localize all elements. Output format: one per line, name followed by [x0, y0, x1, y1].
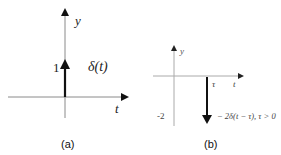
panel-a-impulse	[60, 59, 70, 97]
panel-a-axes	[8, 8, 129, 118]
panel-a-caption: (a)	[61, 139, 74, 150]
panel-a-t-arrow-icon	[121, 93, 129, 101]
panel-b-t-arrow-icon	[238, 73, 244, 79]
panel-a-y-arrow-icon	[61, 8, 69, 16]
panel-b-caption: (b)	[204, 139, 217, 150]
panel-b-t-label: t	[233, 80, 236, 89]
panel-a-impulse-arrow-icon	[60, 59, 70, 69]
panel-b-impulse-label: − 2δ(t − τ), τ > 0	[217, 112, 276, 121]
panel-b-value-label: -2	[157, 112, 165, 121]
panel-b-tau-label: τ	[212, 80, 215, 89]
panel-a-t-label: t	[115, 102, 119, 115]
panel-a-y-label: y	[75, 14, 81, 27]
panel-b-y-label: y	[180, 47, 184, 56]
panel-a-value-label: 1	[53, 61, 60, 74]
diagram-canvas	[0, 0, 281, 155]
panel-b-impulse	[202, 77, 212, 124]
panel-b-y-arrow-icon	[171, 45, 177, 51]
panel-b-impulse-arrow-icon	[202, 115, 212, 124]
panel-a-impulse-label: δ(t)	[88, 60, 108, 74]
